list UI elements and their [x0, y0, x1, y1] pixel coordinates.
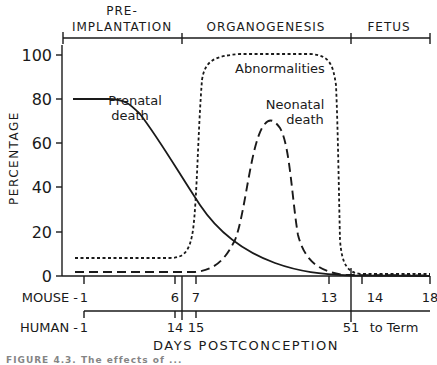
- annotation-prenatal: Prenatal: [108, 93, 162, 108]
- prenatal-death-curve: [73, 99, 430, 276]
- mouse-tick-14: 14: [367, 290, 384, 305]
- annotation-neonatal: Neonatal: [266, 97, 325, 112]
- period-label-implantation: IMPLANTATION: [72, 20, 172, 34]
- period-label-organogenesis: ORGANOGENESIS: [207, 20, 326, 34]
- human-axis: [84, 311, 430, 318]
- figure-caption: FIGURE 4.3. The effects of ...: [6, 355, 182, 365]
- mouse-tick-1: 1: [80, 290, 88, 305]
- abnormalities-curve: [75, 54, 430, 274]
- y-tick-20: 20: [32, 223, 52, 242]
- annotation-neonatal-death: death: [286, 112, 324, 127]
- x-axis-label: DAYS POSTCONCEPTION: [153, 338, 339, 353]
- human-tick-15: 15: [188, 320, 205, 335]
- period-label-pre: PRE-: [106, 4, 138, 18]
- human-axis-label: HUMAN -: [20, 320, 78, 335]
- annotation-abnormalities: Abnormalities: [235, 61, 325, 76]
- y-tick-0: 0: [42, 267, 52, 286]
- human-tick-1: 1: [80, 320, 88, 335]
- period-label-fetus: FETUS: [367, 20, 410, 34]
- y-tick-40: 40: [32, 178, 52, 197]
- human-tick-51: 51: [343, 320, 360, 335]
- y-tick-60: 60: [32, 134, 52, 153]
- mouse-tick-6: 6: [171, 290, 179, 305]
- annotation-prenatal-death: death: [111, 108, 149, 123]
- mouse-axis-label: MOUSE -: [22, 290, 79, 305]
- y-axis: [56, 45, 62, 276]
- y-tick-100: 100: [21, 46, 52, 65]
- y-axis-label: PERCENTAGE: [7, 111, 21, 205]
- mouse-tick-13: 13: [321, 290, 338, 305]
- mouse-tick-18: 18: [422, 290, 437, 305]
- mouse-tick-7: 7: [192, 290, 200, 305]
- human-tick-term: to Term: [370, 320, 419, 335]
- teratogenesis-chart: PRE- IMPLANTATION ORGANOGENESIS FETUS 10…: [0, 0, 437, 365]
- y-tick-80: 80: [32, 90, 52, 109]
- human-tick-14: 14: [167, 320, 184, 335]
